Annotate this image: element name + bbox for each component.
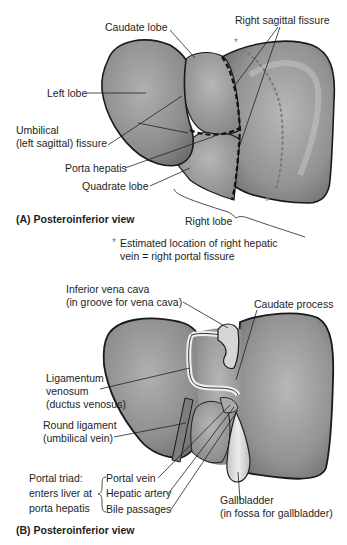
caption-panel-b: (B) Posteroinferior view [16,524,134,536]
label-lig-venosum-line2: venosum [46,385,89,398]
label-gallbladder-line2: (in fossa for gallbladder) [220,507,333,520]
label-right-lobe: Right lobe [185,215,232,228]
footnote-asterisk: * [112,236,116,249]
label-umbilical-line2: (left sagittal) fissure [16,137,107,150]
label-portal-triad-line3: porta hepatis [29,502,90,515]
label-ivc-line1: Inferior vena cava [66,283,149,296]
label-left-lobe: Left lobe [47,87,87,100]
left-lobe-shape [102,40,193,166]
label-umbilical-line1: Umbilical [16,124,59,137]
label-round-ligament-line1: Round ligament [43,419,117,432]
label-quadrate-lobe: Quadrate lobe [82,180,149,193]
footnote-line2: vein = right portal fissure [120,250,235,263]
label-round-ligament-line2: (umbilical vein) [43,432,113,445]
svg-text:*: * [234,37,238,48]
label-lig-venosum-line1: Ligamentum [46,372,104,385]
label-ivc-line2: (in groove for vena cava) [66,296,182,309]
label-right-sagittal-fissure: Right sagittal fissure [235,14,330,27]
svg-text:*: * [265,196,269,207]
label-portal-triad-line1: Portal triad: [29,472,83,485]
liver-anatomy-figure: * * [0,0,347,545]
label-bile-passages: Bile passages [106,503,171,516]
label-caudate-lobe: Caudate lobe [105,21,167,34]
label-caudate-process: Caudate process [254,298,333,311]
liver-illustration: * * [0,0,347,545]
caption-panel-a: (A) Posteroinferior view [16,213,134,225]
label-lig-venosum-line3: (ductus venosus) [46,398,126,411]
label-portal-triad-line2: enters liver at [29,487,92,500]
panel-a-liver: * * [87,27,334,237]
footnote-line1: Estimated location of right hepatic [120,237,278,250]
label-porta-hepatis: Porta hepatis [65,162,127,175]
label-gallbladder-line1: Gallbladder [220,494,274,507]
label-hepatic-artery: Hepatic artery [106,487,171,500]
label-portal-vein: Portal vein [106,472,156,485]
